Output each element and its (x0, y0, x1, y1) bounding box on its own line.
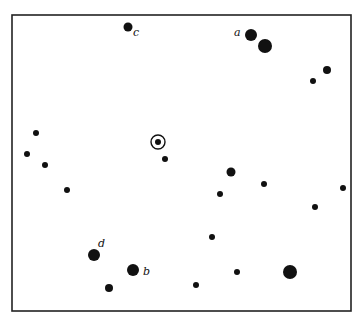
star-dot (42, 162, 48, 168)
comparison-star-a: a (234, 26, 257, 41)
star-chart: abcd (0, 0, 360, 320)
star-dot (88, 249, 100, 261)
star-dot (261, 181, 267, 187)
star-dot (24, 151, 30, 157)
star-dot (193, 282, 199, 288)
star-label: b (143, 265, 150, 278)
star-dot (64, 187, 70, 193)
comparison-star-c: c (124, 23, 140, 40)
star-dot (105, 284, 113, 292)
star-dot (127, 264, 139, 276)
chart-frame (12, 15, 351, 311)
comparison-star-d: d (88, 237, 105, 261)
comparison-star-b: b (127, 264, 150, 278)
star-field (24, 39, 346, 292)
star-dot (162, 156, 168, 162)
comparison-stars: abcd (88, 23, 257, 279)
target-marker (151, 135, 165, 149)
star-dot (310, 78, 316, 84)
star-dot (234, 269, 240, 275)
star-dot (283, 265, 297, 279)
star-label: c (133, 26, 139, 39)
target-star-dot (155, 139, 161, 145)
star-dot (312, 204, 318, 210)
star-dot (227, 168, 236, 177)
star-dot (217, 191, 223, 197)
star-dot (124, 23, 133, 32)
star-dot (258, 39, 272, 53)
star-dot (323, 66, 331, 74)
star-label: a (234, 26, 241, 39)
star-dot (209, 234, 215, 240)
star-dot (33, 130, 39, 136)
star-dot (340, 185, 346, 191)
star-label: d (98, 237, 105, 250)
star-dot (245, 29, 257, 41)
